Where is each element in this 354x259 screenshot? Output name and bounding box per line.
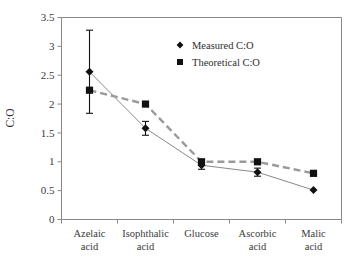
series-lines — [90, 72, 314, 190]
x-category-label-line2: acid — [81, 241, 99, 252]
x-category-label: Azelaic — [73, 228, 105, 239]
y-tick-label: 0.5 — [41, 184, 55, 196]
legend-marker-square — [177, 59, 183, 65]
y-tick-label: 1 — [49, 155, 55, 167]
y-tick-label: 2 — [49, 98, 55, 110]
x-axis-labels: AzelaicacidIsophthalicacidGlucoseAscorbi… — [73, 228, 326, 252]
series-markers — [86, 68, 318, 194]
data-point-measured — [254, 168, 262, 176]
data-point-theoretical — [198, 158, 205, 165]
x-category-label: Isophthalic — [122, 228, 169, 239]
series-line-measured — [90, 72, 314, 190]
data-point-theoretical — [86, 87, 93, 94]
x-category-label-line2: acid — [305, 241, 323, 252]
x-axis-ticks — [62, 220, 342, 224]
legend-label: Measured C:O — [192, 40, 254, 51]
data-point-theoretical — [142, 100, 149, 107]
co-ratio-line-chart: 00.511.522.533.5 C:O AzelaicacidIsophtha… — [0, 0, 354, 259]
data-point-theoretical — [310, 170, 317, 177]
y-tick-label: 1.5 — [41, 127, 55, 139]
y-axis: 00.511.522.533.5 — [41, 11, 62, 225]
chart-legend: Measured C:OTheoretical C:O — [177, 40, 261, 68]
legend-marker-diamond — [177, 42, 184, 49]
y-tick-label: 0 — [49, 213, 55, 225]
y-axis-title: C:O — [4, 108, 16, 127]
x-category-label: Glucose — [184, 228, 219, 239]
data-point-measured — [310, 186, 318, 194]
x-category-label: Malic — [301, 228, 326, 239]
x-category-label-line2: acid — [249, 241, 267, 252]
y-tick-label: 3 — [49, 40, 55, 52]
x-category-label: Ascorbic — [239, 228, 277, 239]
x-category-label-line2: acid — [137, 241, 155, 252]
y-tick-label: 2.5 — [41, 69, 55, 81]
legend-label: Theoretical C:O — [192, 57, 260, 68]
data-point-theoretical — [254, 158, 261, 165]
chart-container: 00.511.522.533.5 C:O AzelaicacidIsophtha… — [0, 0, 354, 259]
error-bars — [86, 30, 261, 176]
y-tick-label: 3.5 — [41, 11, 55, 23]
